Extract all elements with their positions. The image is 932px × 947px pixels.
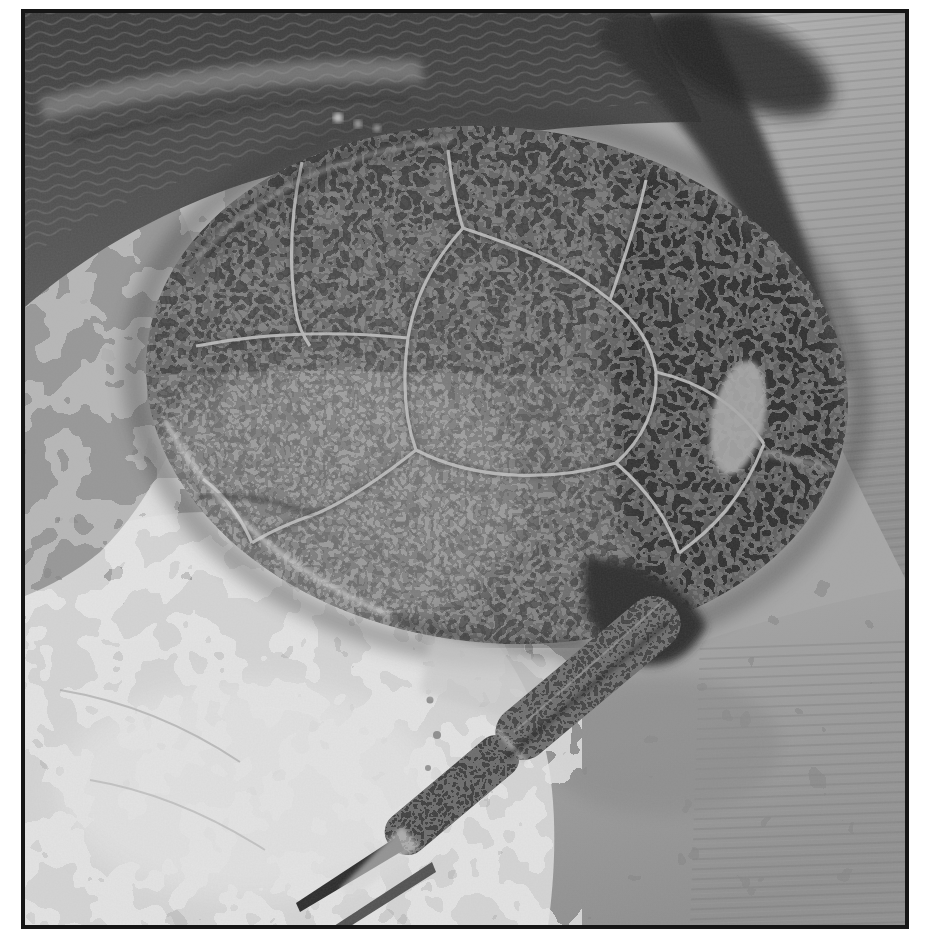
photo-area [25, 0, 906, 934]
fossil-photo-canvas [0, 0, 932, 947]
halftone-grain [25, 13, 906, 926]
page [0, 0, 932, 947]
fossil-photograph [0, 0, 932, 947]
